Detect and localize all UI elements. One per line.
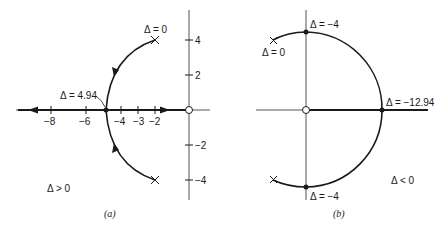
caption-b: (b) — [333, 208, 345, 220]
root-locus-figure: −8 −6 −4 −3 −2 4 2 −2 −4 — [0, 0, 445, 232]
arrow-right-icon — [160, 107, 170, 114]
pole-x-icon — [270, 37, 277, 44]
pole-label-a: Δ = 0 — [144, 24, 168, 35]
y-tick-label: 4 — [195, 35, 201, 46]
x-tick-label: −2 — [149, 116, 161, 127]
crossing-point-top — [304, 30, 309, 35]
x-tick-label: −3 — [133, 116, 145, 127]
x-tick-label: −8 — [44, 116, 56, 127]
breakaway-point — [104, 108, 109, 113]
x-tick-label: −4 — [114, 116, 126, 127]
panel-a: −8 −6 −4 −3 −2 4 2 −2 −4 — [16, 10, 210, 220]
bottom-crossing-label: Δ = −4 — [310, 191, 339, 202]
zero-circle-icon — [186, 107, 193, 114]
caption-a: (a) — [104, 208, 116, 220]
x-tick-label: −6 — [79, 116, 91, 127]
pole-x-icon — [151, 176, 159, 184]
region-label-b: Δ < 0 — [391, 175, 415, 186]
panel-b: Δ = −4 Δ = 0 Δ = −12.94 Δ = −4 Δ < 0 (b) — [256, 10, 435, 220]
leader-line — [96, 96, 105, 107]
region-label-a: Δ > 0 — [47, 183, 71, 194]
breakaway-label: Δ = 4.94 — [60, 90, 97, 101]
top-crossing-label: Δ = −4 — [310, 19, 339, 30]
pole-x-icon — [270, 176, 277, 183]
pole-label-b: Δ = 0 — [262, 47, 286, 58]
pole-x-icon — [151, 36, 159, 44]
zero-circle-icon — [303, 107, 310, 114]
y-tick-label: −2 — [195, 140, 207, 151]
y-tick-label: −4 — [195, 175, 207, 186]
arrow-left-icon — [28, 107, 38, 114]
crossing-point-real — [380, 108, 385, 113]
crossing-point-bottom — [304, 185, 309, 190]
real-crossing-label: Δ = −12.94 — [386, 97, 435, 108]
y-tick-label: 2 — [195, 70, 201, 81]
